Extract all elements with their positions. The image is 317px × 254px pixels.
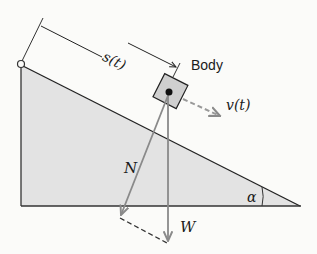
component-dashed-line [120, 218, 167, 243]
velocity-label: v(t) [226, 97, 250, 113]
displacement-label: s(t) [100, 48, 128, 73]
extension-line-start [22, 18, 43, 61]
normal-force-label: N [123, 159, 138, 177]
angle-label: α [247, 189, 257, 205]
weight-label: W [180, 218, 197, 236]
center-of-mass-dot [166, 89, 173, 96]
displacement-line-b [128, 43, 176, 67]
pivot-point [18, 61, 25, 68]
extension-line-end [173, 63, 180, 77]
body-label: Body [191, 57, 223, 73]
velocity-arrow [183, 99, 220, 116]
displacement-line-a [41, 26, 102, 57]
inclined-plane-diagram: α s(t) Body v(t) N W [0, 0, 317, 254]
